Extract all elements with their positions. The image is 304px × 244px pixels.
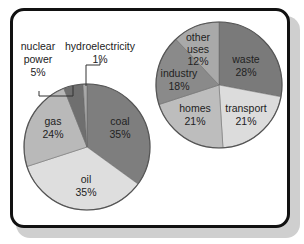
label-gas-pct: 24% xyxy=(42,128,63,140)
label-homes: homes xyxy=(179,102,211,114)
label-other-pct: 12% xyxy=(187,55,208,67)
chart-canvas: nuclear power 5% hydroelectricity 1% coa… xyxy=(0,0,304,244)
label-oil-pct: 35% xyxy=(75,186,96,198)
label-coal-pct: 35% xyxy=(109,128,130,140)
label-transport: transport xyxy=(225,102,267,114)
label-waste-pct: 28% xyxy=(235,66,256,78)
label-other-1: other xyxy=(186,31,210,43)
label-hydro: hydroelectricity xyxy=(65,40,136,52)
label-oil: oil xyxy=(81,173,92,185)
label-transport-pct: 21% xyxy=(235,115,256,127)
label-nuclear-1: nuclear xyxy=(21,40,56,52)
label-hydro-pct: 1% xyxy=(92,53,107,65)
label-nuclear-2: power xyxy=(24,53,53,65)
label-coal: coal xyxy=(110,115,129,127)
label-waste: waste xyxy=(231,53,260,65)
label-industry: industry xyxy=(161,67,199,79)
label-nuclear-pct: 5% xyxy=(30,66,45,78)
label-industry-pct: 18% xyxy=(168,80,189,92)
label-other-2: uses xyxy=(187,43,209,55)
label-homes-pct: 21% xyxy=(184,115,205,127)
label-gas: gas xyxy=(45,115,62,127)
